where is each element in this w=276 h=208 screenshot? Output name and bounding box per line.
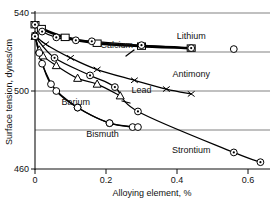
data-point-antimony-1: [42, 42, 49, 47]
series-label-strontium: Strontium: [172, 145, 211, 155]
data-point-strontium-5: [230, 149, 237, 156]
data-point-strontium-6: [257, 159, 264, 166]
series-label-lithium: Lithium: [177, 31, 206, 41]
data-point-calcium-6: [188, 45, 195, 52]
series-label-bismuth: Bismuth: [86, 129, 119, 139]
chart-canvas: 540 500 460 0 0.2 0.4 0.6 Alloying eleme…: [0, 0, 276, 208]
x-tick-label-0.4: 0.4: [171, 175, 184, 185]
data-point-antimony-4: [131, 78, 138, 83]
x-tick-label-0: 0: [32, 175, 37, 185]
data-point-calcium-3: [72, 37, 79, 44]
data-point-antimony-2: [67, 55, 74, 60]
series-label-barium: Barium: [62, 97, 91, 107]
y-axis-title: Surface tension, dynes/cm: [4, 39, 14, 145]
data-point-barium-2: [48, 81, 55, 88]
data-point-strontium-3: [111, 84, 118, 91]
data-point-bismuth-1: [39, 60, 46, 67]
surface-tension-chart: 540 500 460 0 0.2 0.4 0.6 Alloying eleme…: [0, 0, 276, 208]
data-point-lithium-2: [61, 34, 69, 40]
data-point-bismuth-5: [135, 124, 142, 131]
series-label-antimony: Antimony: [172, 69, 210, 79]
label-leader-lines: [122, 50, 134, 103]
data-point-bismuth-4: [106, 120, 113, 127]
x-tick-label-0.6: 0.6: [242, 175, 255, 185]
data-point-antimony-3: [94, 67, 101, 72]
y-tick-label-460: 460: [14, 164, 29, 174]
y-tick-label-500: 500: [14, 86, 29, 96]
data-point-extra-0: [230, 46, 237, 53]
data-point-lead-3: [52, 61, 60, 68]
x-axis-title: Alloying element, %: [112, 188, 191, 198]
data-point-bismuth-2: [53, 88, 60, 95]
data-point-strontium-4: [135, 108, 142, 115]
y-tick-label-540: 540: [14, 8, 29, 18]
series-label-lead: Lead: [131, 85, 151, 95]
data-point-lead-6: [116, 92, 124, 99]
data-point-strontium-1: [51, 54, 58, 61]
data-point-strontium-0: [32, 33, 39, 40]
data-point-calcium-0: [32, 21, 39, 28]
data-point-calcium-5: [138, 42, 145, 49]
gridlines: [35, 13, 270, 130]
x-tick-label-0.2: 0.2: [100, 175, 113, 185]
data-point-lead-4: [74, 74, 82, 81]
data-point-strontium-2: [87, 72, 94, 79]
data-point-calcium-1: [39, 28, 46, 35]
data-point-calcium-2: [53, 34, 60, 41]
data-point-calcium-4: [88, 38, 95, 45]
leader-line-calcium: [126, 50, 134, 56]
series-label-calcium: Calcium: [100, 40, 133, 50]
data-point-barium-1: [36, 50, 43, 57]
